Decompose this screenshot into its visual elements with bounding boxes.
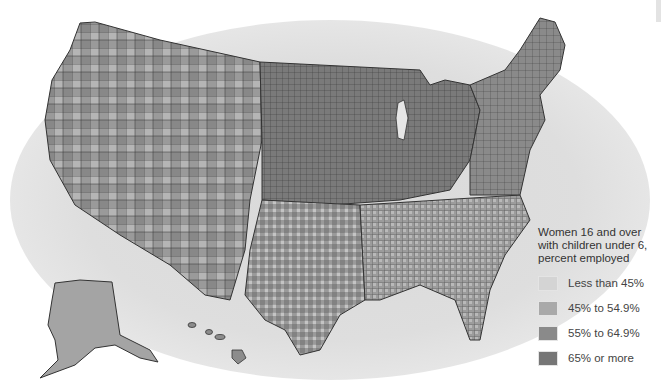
legend-item-45-to-54-9: 45% to 54.9% xyxy=(538,300,661,316)
legend-label: 55% to 64.9% xyxy=(568,327,640,339)
region-midwest xyxy=(260,62,480,205)
region-south-central xyxy=(245,200,365,355)
legend-item-55-to-64-9: 55% to 64.9% xyxy=(538,325,661,341)
region-northeast xyxy=(470,18,565,195)
legend-label: Less than 45% xyxy=(568,277,644,289)
map-figure: Women 16 and over with children under 6,… xyxy=(0,0,661,389)
legend-title-line-1: Women 16 and over xyxy=(538,226,661,239)
map-legend: Women 16 and over with children under 6,… xyxy=(538,226,661,375)
legend-label: 65% or more xyxy=(568,352,634,364)
legend-title: Women 16 and over with children under 6,… xyxy=(538,226,661,265)
region-west xyxy=(45,22,262,300)
alaska-inset xyxy=(40,280,158,378)
legend-title-line-3: percent employed xyxy=(538,252,661,265)
hawaii-inset xyxy=(188,323,246,365)
legend-swatch xyxy=(538,301,558,316)
legend-item-less-than-45: Less than 45% xyxy=(538,275,661,291)
legend-title-line-2: with children under 6, xyxy=(538,239,661,252)
legend-item-65-or-more: 65% or more xyxy=(538,350,661,366)
legend-swatch xyxy=(538,276,558,291)
legend-swatch xyxy=(538,326,558,341)
region-southeast xyxy=(360,195,530,340)
legend-label: 45% to 54.9% xyxy=(568,302,640,314)
legend-swatch xyxy=(538,351,558,366)
